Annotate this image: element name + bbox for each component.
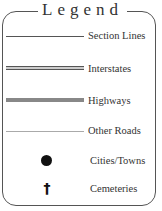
legend-item-section-lines: Section Lines	[0, 29, 162, 43]
legend-label: Highways	[88, 94, 131, 108]
legend-label: Cemeteries	[90, 182, 137, 196]
legend-item-interstates: Interstates	[0, 62, 162, 76]
city-dot-icon	[41, 155, 52, 166]
legend-label: Cities/Towns	[90, 154, 145, 168]
other-road-line-icon	[6, 131, 84, 132]
highway-line-icon	[6, 98, 84, 102]
legend-item-cities-towns: Cities/Towns	[0, 154, 162, 168]
cemetery-cross-icon: †	[41, 180, 53, 196]
section-line-icon	[6, 36, 84, 37]
interstate-line-icon	[6, 66, 84, 70]
legend-label: Interstates	[88, 62, 131, 76]
legend-title: Legend	[38, 0, 127, 20]
legend-item-other-roads: Other Roads	[0, 124, 162, 138]
legend-item-highways: Highways	[0, 94, 162, 108]
legend-label: Section Lines	[88, 29, 145, 43]
legend-item-cemeteries: † Cemeteries	[0, 182, 162, 196]
legend-label: Other Roads	[88, 124, 141, 138]
